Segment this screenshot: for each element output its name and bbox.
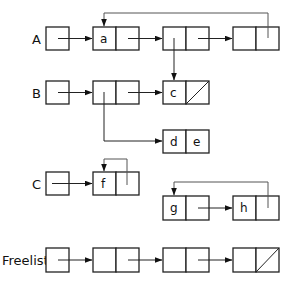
- node-de: d e: [163, 130, 209, 153]
- node-c: c: [163, 81, 209, 104]
- list-a: A a: [32, 13, 279, 80]
- label-freelist: Freelist: [2, 253, 49, 268]
- freelist: Freelist: [2, 248, 279, 272]
- free-node-3: [233, 248, 279, 272]
- cycle-gh: g h: [163, 182, 279, 220]
- label-a: A: [32, 32, 41, 47]
- list-b: B c d e: [32, 81, 209, 153]
- cell-d: d: [170, 135, 178, 149]
- node-a3: [233, 27, 279, 50]
- cell-c: c: [170, 86, 177, 100]
- linked-list-diagram: A a B: [0, 0, 299, 291]
- label-b: B: [32, 86, 41, 101]
- list-c: C f: [32, 159, 139, 195]
- cell-h: h: [240, 201, 248, 215]
- node-f: f: [93, 172, 139, 195]
- cell-a: a: [100, 32, 107, 46]
- cell-e: e: [193, 135, 200, 149]
- label-c: C: [32, 177, 41, 192]
- node-h: h: [233, 196, 279, 220]
- cell-g: g: [170, 201, 178, 215]
